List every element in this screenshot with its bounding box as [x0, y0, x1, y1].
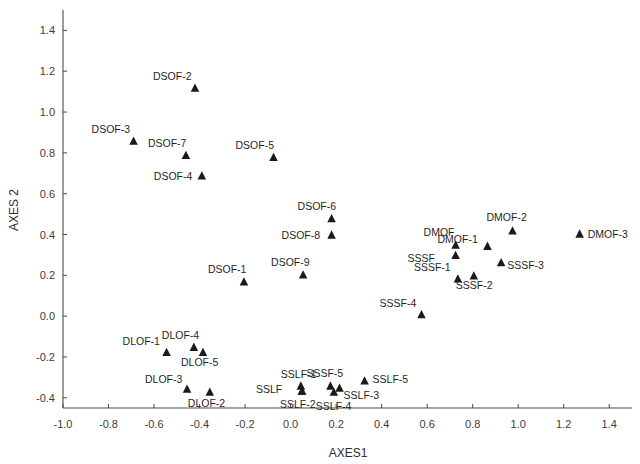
- data-point-marker: [269, 153, 278, 161]
- data-point-label: DSOF-2: [153, 70, 192, 82]
- data-point-label: DMOF-1: [437, 233, 477, 245]
- data-point-marker: [470, 271, 479, 279]
- data-point-marker: [182, 151, 191, 159]
- x-tick-label: -1.0: [54, 418, 73, 430]
- data-point-label: DLOF-1: [123, 335, 161, 347]
- data-point-marker: [497, 258, 506, 266]
- axes-group: [63, 10, 632, 408]
- data-point-marker: [297, 381, 306, 389]
- x-tick-label: 0.0: [283, 418, 298, 430]
- data-point-label: DSOF-9: [271, 256, 310, 268]
- x-tick-label: 1.0: [511, 418, 526, 430]
- data-point-label: DSOF-4: [154, 170, 193, 182]
- data-point-label: DSOF-5: [236, 139, 275, 151]
- data-point-label: DMOF-2: [487, 211, 527, 223]
- data-point-label: DSOF-6: [298, 200, 337, 212]
- y-tick-label: 0.4: [40, 229, 55, 241]
- data-point-label: DSOF-3: [92, 123, 131, 135]
- data-point-marker: [327, 230, 336, 238]
- x-tick-label: 0.8: [465, 418, 480, 430]
- x-tick-label: -0.6: [145, 418, 164, 430]
- y-tick-label: 0.2: [40, 269, 55, 281]
- data-point-marker: [575, 229, 584, 237]
- y-axis-title: AXES 2: [7, 189, 21, 231]
- data-point-label: DSOF-7: [148, 137, 187, 149]
- data-point-label: SSSF-2: [456, 279, 493, 291]
- data-point-label: DSOF-8: [282, 229, 321, 241]
- data-point-marker: [335, 383, 344, 391]
- data-point-label: DSOF-1: [208, 263, 247, 275]
- data-point-label: SSLF-2: [280, 398, 316, 410]
- data-point-label: SSSF-5: [306, 367, 343, 379]
- data-points: DSOF-2DSOF-3DSOF-7DSOF-5DSOF-4DSOF-6DSOF…: [92, 70, 629, 412]
- data-point-marker: [508, 226, 517, 234]
- data-point-label: DLOF-3: [145, 373, 183, 385]
- data-point-marker: [191, 83, 200, 91]
- x-axis-title: AXES1: [329, 446, 368, 460]
- data-point-label: SSLF-5: [373, 373, 409, 385]
- data-point-marker: [299, 270, 308, 278]
- data-point-label: SSLF: [256, 383, 282, 395]
- data-point-marker: [206, 387, 215, 395]
- data-point-marker: [360, 376, 369, 384]
- y-tick-label: 0.0: [40, 310, 55, 322]
- data-point-label: DMOF-3: [588, 228, 628, 240]
- data-point-marker: [327, 214, 336, 222]
- y-axis-ticks: -0.4-0.20.00.20.40.60.81.01.21.4: [36, 24, 67, 403]
- x-tick-label: 0.2: [328, 418, 343, 430]
- data-point-marker: [198, 171, 207, 179]
- y-tick-label: 1.2: [40, 65, 55, 77]
- x-tick-label: 1.4: [602, 418, 617, 430]
- data-point-marker: [162, 348, 171, 356]
- data-point-label: SSLF-4: [316, 400, 352, 412]
- data-point-marker: [240, 277, 249, 285]
- x-tick-label: 0.6: [420, 418, 435, 430]
- y-tick-label: 1.4: [40, 24, 55, 36]
- data-point-label: DLOF-5: [181, 356, 219, 368]
- scatter-plot: -1.0-0.8-0.6-0.4-0.20.00.20.40.60.81.01.…: [0, 0, 640, 464]
- y-tick-label: 0.8: [40, 147, 55, 159]
- data-point-marker: [417, 310, 426, 318]
- x-tick-label: -0.4: [190, 418, 209, 430]
- data-point-marker: [199, 348, 208, 356]
- x-tick-label: -0.8: [99, 418, 118, 430]
- chart-page: -1.0-0.8-0.6-0.4-0.20.00.20.40.60.81.01.…: [0, 0, 640, 464]
- data-point-marker: [183, 384, 192, 392]
- y-tick-label: -0.2: [36, 351, 55, 363]
- data-point-label: DLOF-2: [188, 397, 226, 409]
- data-point-label: SSSF-4: [379, 297, 416, 309]
- x-tick-label: 1.2: [556, 418, 571, 430]
- x-tick-label: -0.2: [236, 418, 255, 430]
- y-tick-label: 1.0: [40, 106, 55, 118]
- data-point-marker: [483, 242, 492, 250]
- x-tick-label: 0.4: [374, 418, 389, 430]
- y-tick-label: 0.6: [40, 188, 55, 200]
- data-point-marker: [129, 136, 138, 144]
- y-tick-label: -0.4: [36, 392, 55, 404]
- data-point-label: SSSF-3: [507, 259, 544, 271]
- data-point-label: DLOF-4: [162, 329, 200, 341]
- data-point-marker: [190, 343, 199, 351]
- data-point-marker: [451, 251, 460, 259]
- data-point-label: SSSF-1: [414, 261, 451, 273]
